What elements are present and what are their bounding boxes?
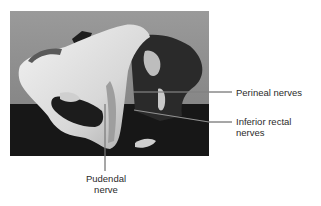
inferior-rectal-nerves-label: Inferior rectal nerves bbox=[236, 116, 291, 138]
pudendal-label-line2: nerve bbox=[82, 184, 130, 195]
pudendal-nerve-label: Pudendal nerve bbox=[82, 173, 130, 195]
inferior-leader-photo bbox=[134, 110, 209, 122]
perineal-label-line1: Perineal nerves bbox=[236, 87, 302, 98]
anatomy-figure: Perineal nerves Inferior rectal nerves P… bbox=[0, 0, 321, 206]
leader-lines bbox=[0, 0, 321, 206]
perineal-nerves-label: Perineal nerves bbox=[236, 87, 302, 98]
inferior-label-line1: Inferior rectal bbox=[236, 116, 291, 127]
inferior-label-line2: nerves bbox=[236, 127, 291, 138]
inferior-rectal-leader-line bbox=[134, 110, 232, 122]
pudendal-label-line1: Pudendal bbox=[82, 173, 130, 184]
